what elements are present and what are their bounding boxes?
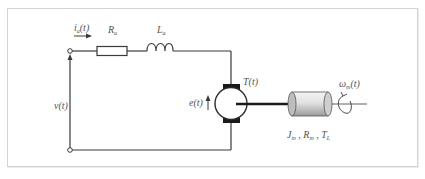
rotation-arrow-icon <box>338 92 351 113</box>
emf-arrow-icon <box>206 95 211 110</box>
input-terminal-top <box>68 49 73 54</box>
inductor-label: La <box>157 25 166 38</box>
load-inertia-icon <box>288 92 332 116</box>
speed-label: ωm(t) <box>339 79 360 92</box>
load-parameters-label: Jm , Rm , TL <box>287 130 330 143</box>
voltage-arrow-icon <box>68 54 73 60</box>
torque-label: T(t) <box>243 77 258 87</box>
current-label: ia(t) <box>74 23 89 36</box>
resistor-icon <box>97 47 127 56</box>
circuit-drawing <box>0 0 425 179</box>
input-terminal-bottom <box>68 148 73 153</box>
inductor-icon <box>147 44 173 52</box>
voltage-label: v(t) <box>54 101 68 111</box>
resistor-label: Ra <box>108 25 117 38</box>
back-emf-label: e(t) <box>189 98 203 108</box>
